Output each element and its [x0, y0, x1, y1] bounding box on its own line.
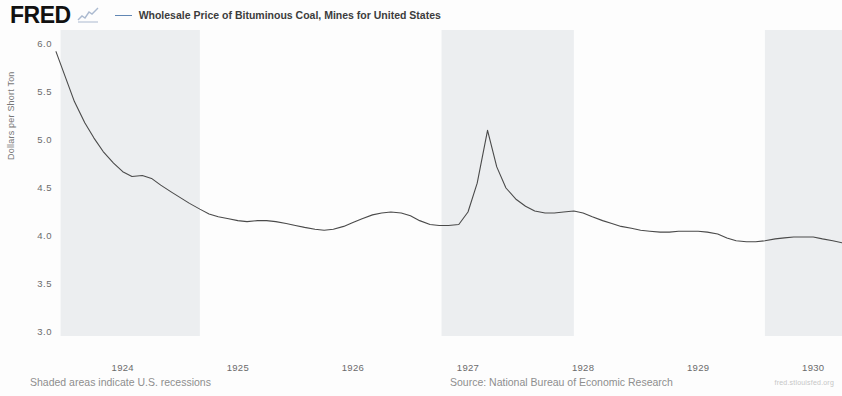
x-axis-tick-label: 1924 [112, 362, 134, 373]
x-axis-tick-label: 1925 [227, 362, 249, 373]
fred-logo: FRED [10, 4, 71, 27]
sparkline-icon [77, 7, 99, 23]
chart-canvas [0, 30, 842, 362]
chart-header: FRED Wholesale Price of Bituminous Coal,… [0, 0, 842, 30]
recession-band [765, 30, 842, 336]
chart-footer: Shaded areas indicate U.S. recessions So… [0, 376, 842, 396]
plot-area: Dollars per Short Ton 6.05.55.04.54.03.5… [0, 30, 842, 362]
recession-band [61, 30, 200, 336]
fred-url: fred.stlouisfed.org [775, 379, 834, 386]
source-note: Source: National Bureau of Economic Rese… [450, 376, 673, 388]
legend-swatch-series-1 [115, 15, 132, 16]
x-axis-tick-label: 1927 [457, 362, 479, 373]
x-axis-tick-label: 1926 [342, 362, 364, 373]
x-axis-tick-label: 1929 [687, 362, 709, 373]
recession-band [442, 30, 574, 336]
x-axis-tick-label: 1928 [572, 362, 594, 373]
x-axis-tick-label: 1930 [802, 362, 824, 373]
legend-label-series-1: Wholesale Price of Bituminous Coal, Mine… [139, 9, 441, 21]
chart-legend: Wholesale Price of Bituminous Coal, Mine… [115, 9, 441, 21]
fred-chart-figure: FRED Wholesale Price of Bituminous Coal,… [0, 0, 842, 396]
recession-note: Shaded areas indicate U.S. recessions [30, 376, 211, 388]
